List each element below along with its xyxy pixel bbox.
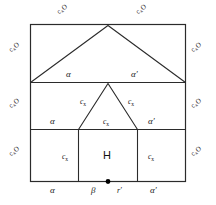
center-cell-label-h: H: [103, 150, 111, 161]
bottom-edge-label-alpha: α: [50, 186, 55, 195]
middle-label-alpha-prime: α′: [148, 117, 155, 126]
bottom-row-label-cx-left: cx: [62, 153, 68, 162]
roof-label-alpha: α: [66, 70, 71, 79]
gable-label-cx-right: cx: [128, 98, 134, 107]
roof-triangle: [31, 26, 186, 83]
bottom-edge-label-alpha-prime: α′: [150, 186, 157, 195]
bottom-edge-label-beta: β: [91, 186, 95, 195]
gable-label-cx-center: cx: [103, 118, 109, 127]
bottom-row-label-cx-right: cx: [148, 153, 154, 162]
symmetry-cell-figure: cxO cxO cxO cxO cxO cxO cxO cxO α α′ α α…: [0, 0, 216, 205]
gable-label-cx-left: cx: [80, 98, 86, 107]
middle-label-alpha: α: [50, 117, 55, 126]
roof-label-alpha-prime: α′: [131, 70, 138, 79]
bottom-edge-label-r-prime: r′: [117, 187, 122, 195]
origin-dot-marker: [106, 179, 111, 184]
figure-line-art: [0, 0, 216, 205]
